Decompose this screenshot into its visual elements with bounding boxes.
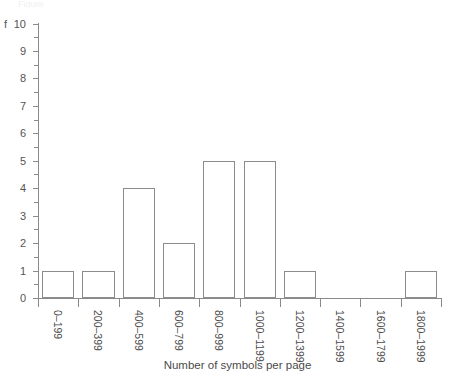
- bar: [42, 271, 74, 298]
- x-category-label: 400–599: [133, 310, 144, 351]
- bar: [203, 161, 235, 298]
- y-tick-label: 10: [0, 19, 26, 30]
- x-tick: [441, 299, 442, 307]
- y-tick-label: 4: [0, 183, 26, 194]
- bar: [284, 271, 316, 298]
- y-tick-major: [33, 51, 38, 52]
- x-tick: [38, 299, 39, 307]
- y-tick-minor: [34, 65, 38, 66]
- x-tick: [320, 299, 321, 307]
- x-tick: [401, 299, 402, 307]
- y-tick-label: 9: [0, 46, 26, 57]
- x-category-label: 1400–1599: [334, 310, 345, 363]
- y-tick-minor: [34, 202, 38, 203]
- histogram-chart: f 012345678910 0–199200–399400–599600–79…: [0, 0, 475, 379]
- x-category-label: 1200–1399: [294, 310, 305, 363]
- y-tick-minor: [34, 147, 38, 148]
- bar: [123, 188, 155, 298]
- y-tick-major: [33, 161, 38, 162]
- y-tick-label: 1: [0, 266, 26, 277]
- x-category-label: 200–399: [92, 310, 103, 351]
- x-tick: [360, 299, 361, 307]
- y-tick-major: [33, 271, 38, 272]
- y-tick-minor: [34, 174, 38, 175]
- bar: [244, 161, 276, 298]
- x-tick: [159, 299, 160, 307]
- bar: [163, 243, 195, 298]
- bar: [82, 271, 114, 298]
- y-tick-major: [33, 216, 38, 217]
- x-category-label: 600–799: [173, 310, 184, 351]
- x-axis-title: Number of symbols per page: [0, 359, 475, 372]
- y-tick-major: [33, 24, 38, 25]
- y-tick-major: [33, 78, 38, 79]
- x-category-label: 800–999: [213, 310, 224, 351]
- x-tick: [119, 299, 120, 307]
- x-category-label: 1000–1199: [254, 310, 265, 362]
- x-tick: [280, 299, 281, 307]
- y-tick-label: 0: [0, 293, 26, 304]
- bar: [405, 271, 437, 298]
- x-tick: [78, 299, 79, 307]
- y-tick-minor: [34, 92, 38, 93]
- y-tick-minor: [34, 37, 38, 38]
- x-category-label: 0–199: [52, 310, 63, 339]
- y-tick-major: [33, 188, 38, 189]
- y-tick-minor: [34, 229, 38, 230]
- x-tick: [240, 299, 241, 307]
- y-tick-label: 7: [0, 101, 26, 112]
- y-tick-label: 2: [0, 238, 26, 249]
- y-tick-major: [33, 243, 38, 244]
- x-tick: [199, 299, 200, 307]
- y-tick-label: 3: [0, 211, 26, 222]
- y-tick-label: 5: [0, 156, 26, 167]
- y-tick-minor: [34, 120, 38, 121]
- y-tick-major: [33, 106, 38, 107]
- x-category-label: 1800–1999: [415, 310, 426, 363]
- y-tick-minor: [34, 284, 38, 285]
- y-tick-major: [33, 133, 38, 134]
- y-axis-line: [38, 23, 39, 299]
- x-category-label: 1600–1799: [375, 310, 386, 363]
- y-tick-label: 8: [0, 73, 26, 84]
- y-tick-label: 6: [0, 128, 26, 139]
- y-tick-minor: [34, 257, 38, 258]
